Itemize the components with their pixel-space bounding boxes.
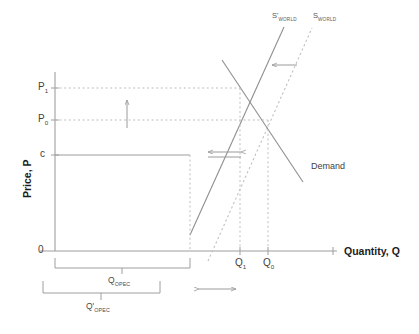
supply-curve-world-new [190,27,284,235]
price-tick-p1: P1 [38,82,48,94]
bracket-label-q-opec: QOPEC [108,276,130,287]
curve-label-supply-world-original: SWORLD [313,12,336,22]
quantity-tick-q1: Q1 [235,258,246,270]
annotation-arrows [127,65,297,289]
quantity-tick-q0-base: Q [263,257,271,268]
price-tick-p1-base: P [38,81,45,92]
curve-label-demand: Demand [311,162,345,171]
economics-diagram: Price, P Quantity, Q 0 P1 P0 c Q1 Q0 S'W… [0,0,419,334]
bracket-label-q-opec-prime-sub: OPEC [94,307,110,313]
price-tick-c-base: c [40,148,45,159]
curve-label-supply-world-new-sub: WORLD [278,17,296,22]
price-tick-p0: P0 [38,114,48,126]
price-tick-p0-sub: 0 [45,119,49,126]
price-tick-c: c [40,149,45,159]
price-tick-p0-base: P [38,113,45,124]
quantity-tick-q1-sub: 1 [243,263,247,270]
quantity-tick-q0-sub: 0 [271,263,275,270]
bracket-label-q-opec-base: Q [108,275,115,285]
axis-lines [40,72,337,255]
bracket-q-opec [55,258,190,274]
y-axis-title: Price, P [22,159,33,198]
bracket-label-q-opec-sub: OPEC [115,281,131,287]
demand-curve [222,60,303,182]
diagram-canvas [0,0,419,334]
projection-lines [55,88,268,251]
bracket-label-q-opec-prime-base: Q' [86,301,94,311]
price-tick-p1-sub: 1 [45,87,49,94]
bracket-q-opec-path [55,258,190,268]
bracket-q-opec-prime [43,281,160,300]
bracket-q-opec-prime-path [43,281,160,293]
origin-label: 0 [38,245,44,255]
bracket-label-q-opec-prime: Q'OPEC [86,302,110,313]
x-axis-title: Quantity, Q [344,246,400,257]
quantity-tick-q1-base: Q [235,257,243,268]
curve-label-supply-world-new: S'WORLD [272,12,297,22]
quantity-tick-q0: Q0 [263,258,274,270]
curve-label-supply-world-original-sub: WORLD [318,17,336,22]
